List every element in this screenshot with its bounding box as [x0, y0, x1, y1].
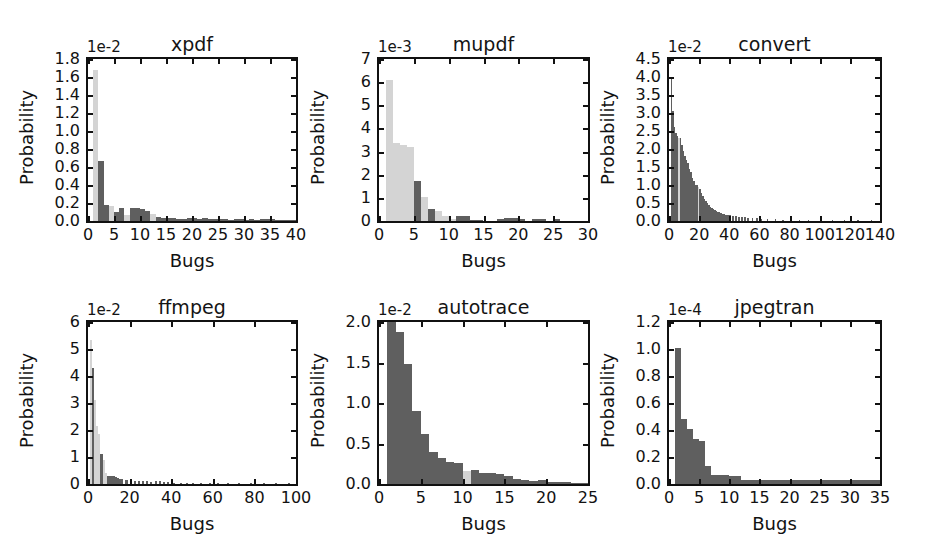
x-tick-mark: [880, 479, 882, 484]
x-tick-mark: [820, 479, 822, 484]
y-tick-mark-right: [875, 322, 880, 324]
x-tick-mark: [729, 479, 731, 484]
y-tick-mark: [669, 457, 674, 459]
y-tick-mark-right: [875, 484, 880, 486]
y-tick-label: 0.0: [605, 476, 661, 492]
x-tick-mark-top: [820, 322, 822, 327]
plot-area-jpegtran: [667, 320, 882, 486]
y-axis-label-jpegtran: Probability: [597, 353, 618, 448]
x-tick-mark: [699, 479, 701, 484]
y-tick-mark-right: [875, 457, 880, 459]
x-tick-mark-top: [790, 322, 792, 327]
y-tick-mark-right: [875, 376, 880, 378]
x-axis-label-jpegtran: Bugs: [667, 513, 882, 534]
x-tick-mark-top: [850, 322, 852, 327]
y-tick-mark: [669, 430, 674, 432]
y-tick-mark: [669, 376, 674, 378]
figure-canvas: 05101520253035400.00.20.40.60.81.01.21.4…: [0, 0, 929, 547]
panel-title-jpegtran: jpegtran: [667, 296, 882, 318]
x-tick-mark: [759, 479, 761, 484]
bars-layer-jpegtran: [669, 322, 880, 484]
x-tick-mark-top: [759, 322, 761, 327]
y-tick-mark-right: [875, 349, 880, 351]
x-tick-mark: [790, 479, 792, 484]
x-tick-mark: [850, 479, 852, 484]
y-tick-mark-right: [875, 430, 880, 432]
y-tick-mark: [669, 322, 674, 324]
x-tick-label: 35: [850, 490, 910, 506]
y-tick-mark: [669, 403, 674, 405]
x-tick-mark-top: [880, 322, 882, 327]
panel-jpegtran: 051015202530350.00.20.40.60.81.01.21e-4j…: [0, 0, 929, 547]
x-tick-mark-top: [699, 322, 701, 327]
y-tick-mark-right: [875, 403, 880, 405]
y-tick-mark: [669, 484, 674, 486]
y-tick-label: 0.2: [605, 449, 661, 465]
x-tick-mark-top: [729, 322, 731, 327]
y-tick-label: 1.2: [605, 314, 661, 330]
y-tick-mark: [669, 349, 674, 351]
